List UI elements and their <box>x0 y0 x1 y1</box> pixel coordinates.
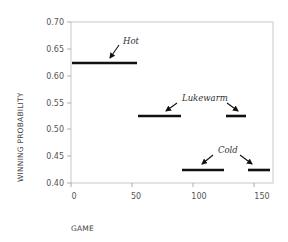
cold-arrow-left <box>202 155 213 164</box>
x-tick-label: 0 <box>71 192 76 201</box>
lukewarm-arrow-left <box>166 103 177 111</box>
y-tick-label: 0.60 <box>46 72 64 81</box>
y-tick-label: 0.45 <box>46 152 64 161</box>
x-tick-label: 50 <box>131 192 141 201</box>
x-axis-title: GAME <box>71 224 94 233</box>
x-tick-label: 150 <box>254 192 269 201</box>
x-tick-labels: 0 50 100 150 <box>71 192 269 201</box>
cold-annotation: Cold <box>218 145 238 155</box>
y-tick-label: 0.65 <box>46 45 64 54</box>
hot-annotation: Hot <box>122 36 140 46</box>
lukewarm-arrow-right <box>227 103 238 111</box>
y-axis <box>67 22 71 183</box>
x-axis <box>71 183 254 187</box>
y-tick-label: 0.50 <box>46 125 64 134</box>
y-tick-label: 0.40 <box>46 179 64 188</box>
y-tick-label: 0.70 <box>46 18 64 27</box>
lukewarm-annotation: Lukewarm <box>181 93 228 103</box>
cold-arrow-right <box>240 155 252 164</box>
y-tick-label: 0.55 <box>46 99 64 108</box>
hot-arrow <box>110 45 119 58</box>
chart-canvas: 0.70 0.65 0.60 0.55 0.50 0.45 0.40 0 50 … <box>0 0 288 242</box>
y-tick-labels: 0.70 0.65 0.60 0.55 0.50 0.45 0.40 <box>46 18 64 188</box>
x-tick-label: 100 <box>191 192 206 201</box>
plot-frame <box>71 22 273 183</box>
y-axis-title: WINNING PROBABILITY <box>16 92 25 182</box>
data-segments <box>72 63 270 170</box>
